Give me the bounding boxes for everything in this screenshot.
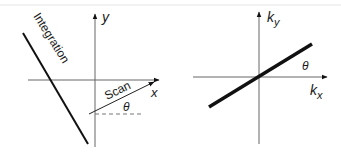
ky-axis-label: ky <box>267 9 281 28</box>
angle-theta-label: θ <box>302 59 309 73</box>
left-panel: y x Integration Scan θ <box>23 9 159 147</box>
kx-axis-label: kx <box>310 82 323 101</box>
y-axis-label: y <box>101 9 110 25</box>
spectrum-line <box>209 44 312 107</box>
right-panel: ky kx θ <box>193 9 327 144</box>
x-axis-label: x <box>150 85 158 100</box>
scan-label: Scan <box>102 78 133 103</box>
scan-geometry-diagram: y x Integration Scan θ ky kx θ <box>0 0 341 159</box>
angle-theta-label: θ <box>123 100 130 114</box>
